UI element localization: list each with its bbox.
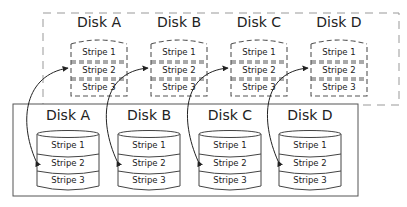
top-disk-d-label: Disk D — [316, 14, 361, 30]
bottom-disk-b-stripe-1: Stripe 1 — [132, 140, 165, 150]
bottom-disk-d-label: Disk D — [287, 107, 332, 123]
top-disk-c-label: Disk C — [237, 14, 282, 30]
top-disk-b-stripe-2: Stripe 2 — [162, 65, 195, 75]
top-disk-c-stripe-1: Stripe 1 — [242, 47, 275, 57]
top-disk-c: Disk C Stripe 1 Stripe 2 Stripe 3 — [231, 14, 287, 96]
top-disk-d-stripe-2: Stripe 2 — [322, 65, 355, 75]
top-disk-c-stripe-3: Stripe 3 — [242, 82, 275, 92]
top-disk-b-stripe-1: Stripe 1 — [162, 47, 195, 57]
bottom-disk-c-stripe-3: Stripe 3 — [213, 175, 246, 185]
bottom-disk-d-stripe-2: Stripe 2 — [293, 158, 326, 168]
bottom-disk-c: Disk C Stripe 1 Stripe 2 Stripe 3 — [199, 107, 261, 190]
bottom-disk-d: Disk D Stripe 1 Stripe 2 Stripe 3 — [279, 107, 341, 190]
raid-diagram: Disk A Stripe 1 Stripe 2 Stripe 3 Disk B… — [0, 0, 407, 207]
bottom-disk-d-stripe-3: Stripe 3 — [293, 175, 326, 185]
bottom-disk-b-stripe-2: Stripe 2 — [132, 158, 165, 168]
top-disk-b-stripe-3: Stripe 3 — [162, 82, 195, 92]
top-disk-d: Disk D Stripe 1 Stripe 2 Stripe 3 — [311, 14, 367, 96]
top-disk-c-stripe-2: Stripe 2 — [242, 65, 275, 75]
top-disk-d-stripe-3: Stripe 3 — [322, 82, 355, 92]
bottom-disk-a-stripe-1: Stripe 1 — [51, 140, 84, 150]
bottom-disk-a-label: Disk A — [46, 107, 91, 123]
bottom-disk-c-label: Disk C — [208, 107, 253, 123]
bottom-disk-c-stripe-1: Stripe 1 — [213, 140, 246, 150]
top-disk-a-stripe-2: Stripe 2 — [82, 65, 115, 75]
bottom-disk-a-stripe-2: Stripe 2 — [51, 158, 84, 168]
bottom-disk-a: Disk A Stripe 1 Stripe 2 Stripe 3 — [37, 107, 99, 190]
top-disk-a-stripe-1: Stripe 1 — [82, 47, 115, 57]
bottom-disk-b-stripe-3: Stripe 3 — [132, 175, 165, 185]
top-disk-b: Disk B Stripe 1 Stripe 2 Stripe 3 — [151, 14, 207, 96]
bottom-disk-b: Disk B Stripe 1 Stripe 2 Stripe 3 — [118, 107, 180, 190]
top-disk-a: Disk A Stripe 1 Stripe 2 Stripe 3 — [71, 14, 127, 96]
top-disk-a-label: Disk A — [77, 14, 122, 30]
bottom-disk-a-stripe-3: Stripe 3 — [51, 175, 84, 185]
top-disk-b-label: Disk B — [157, 14, 201, 30]
bottom-disk-c-stripe-2: Stripe 2 — [213, 158, 246, 168]
bottom-disk-d-stripe-1: Stripe 1 — [293, 140, 326, 150]
top-disk-a-stripe-3: Stripe 3 — [82, 82, 115, 92]
top-disk-d-stripe-1: Stripe 1 — [322, 47, 355, 57]
bottom-disk-b-label: Disk B — [127, 107, 171, 123]
